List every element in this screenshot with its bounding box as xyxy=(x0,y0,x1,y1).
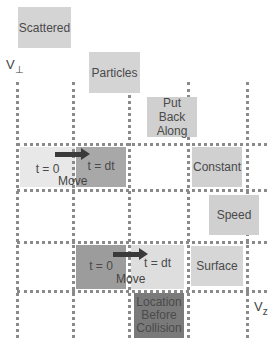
bottom-move-arrow-icon xyxy=(113,252,140,257)
top-move-arrow-icon xyxy=(55,152,82,157)
constant-box: Constant xyxy=(192,147,242,187)
constant-label: Constant xyxy=(193,160,241,174)
speed-box: Speed xyxy=(209,195,259,235)
v-perp-subscript: ⊥ xyxy=(15,64,24,75)
top-t0-label: t = 0 xyxy=(36,162,60,176)
top-tdt-label: t = dt xyxy=(87,159,114,173)
grid-hline-1 xyxy=(17,143,267,146)
location-line-3: Collision xyxy=(136,322,181,335)
location-before-collision-box: Location Before Collision xyxy=(134,293,184,338)
v-z-symbol: V xyxy=(254,299,263,314)
scattered-box: Scattered xyxy=(18,7,71,48)
surface-box: Surface xyxy=(191,246,243,286)
grid-hline-3 xyxy=(17,241,267,244)
velocity-grid-diagram: t = 0 t = dt t = 0 t = dt Location Befor… xyxy=(0,0,278,347)
grid-vline-3 xyxy=(128,82,131,338)
bottom-move-label: Move xyxy=(116,272,145,286)
bottom-tdt-label: t = dt xyxy=(144,256,171,270)
v-perp-symbol: V xyxy=(6,57,15,72)
speed-label: Speed xyxy=(217,208,252,222)
scattered-label: Scattered xyxy=(19,21,70,35)
v-z-axis-label: Vz xyxy=(254,299,268,317)
grid-hline-4 xyxy=(17,290,267,293)
particles-box: Particles xyxy=(89,52,140,93)
v-perp-axis-label: V⊥ xyxy=(6,57,24,75)
v-z-subscript: z xyxy=(263,306,268,317)
surface-label: Surface xyxy=(196,259,237,273)
grid-hline-2 xyxy=(17,189,267,192)
grid-vline-2 xyxy=(72,82,75,338)
put-back-along-label: Put Back Along xyxy=(149,96,195,138)
bottom-t0-label: t = 0 xyxy=(89,259,113,273)
put-back-along-box: Put Back Along xyxy=(147,97,197,137)
grid-vline-1 xyxy=(16,82,19,338)
top-move-label: Move xyxy=(58,174,87,188)
particles-label: Particles xyxy=(91,66,137,80)
